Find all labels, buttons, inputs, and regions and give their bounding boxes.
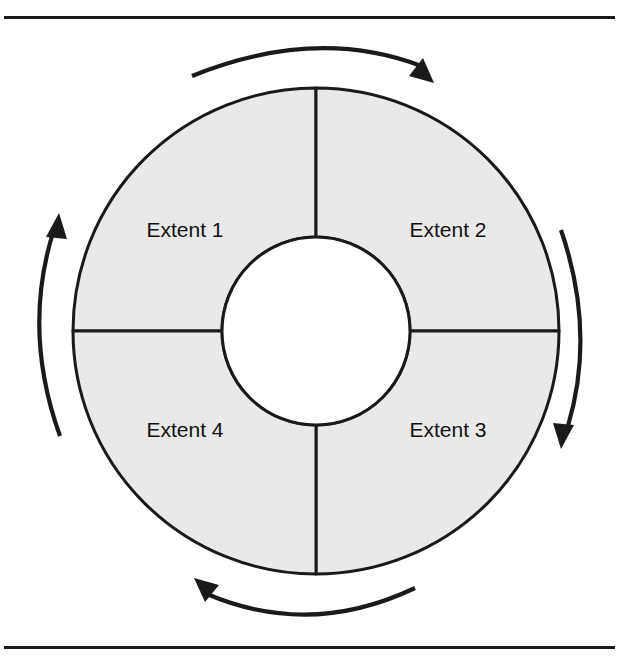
figure-root: Extent 1 Extent 2 Extent 3 Extent 4 xyxy=(0,0,619,659)
cycle-diagram: Extent 1 Extent 2 Extent 3 Extent 4 xyxy=(0,0,619,659)
left-clockwise-arrow xyxy=(39,213,67,436)
center-hub-circle xyxy=(222,237,410,425)
segment-label-extent-1: Extent 1 xyxy=(146,218,223,241)
segment-label-extent-3: Extent 3 xyxy=(409,418,486,441)
right-arrow-head xyxy=(553,423,574,449)
bottom-horizontal-rule xyxy=(4,646,615,649)
top-clockwise-arrow xyxy=(192,48,434,83)
bottom-clockwise-arrow xyxy=(194,578,415,615)
left-arrow-head xyxy=(46,213,67,239)
segment-label-extent-4: Extent 4 xyxy=(146,418,223,441)
segment-label-extent-2: Extent 2 xyxy=(409,218,486,241)
